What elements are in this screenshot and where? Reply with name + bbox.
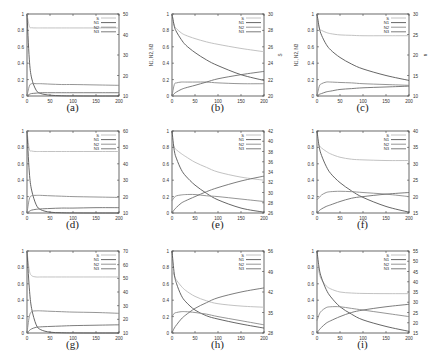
svg-text:0.2: 0.2 xyxy=(18,78,25,83)
svg-text:0.6: 0.6 xyxy=(18,162,25,167)
chart-panel-g: 00.20.40.60.8110203040506070050100150200… xyxy=(0,237,145,355)
chart-caption: (e) xyxy=(145,218,290,230)
svg-text:0: 0 xyxy=(21,331,24,336)
svg-text:60: 60 xyxy=(123,129,129,134)
svg-text:50: 50 xyxy=(123,145,129,150)
chart-caption: (d) xyxy=(0,218,145,230)
svg-text:35: 35 xyxy=(413,290,419,295)
chart-caption: (f) xyxy=(290,218,435,230)
svg-text:30: 30 xyxy=(123,178,129,183)
figure-grid: 00.20.40.60.811020304050050100150200SN1N… xyxy=(0,0,436,356)
svg-text:0.4: 0.4 xyxy=(18,298,25,303)
svg-text:40: 40 xyxy=(123,290,129,295)
svg-text:0: 0 xyxy=(166,331,169,336)
svg-text:1: 1 xyxy=(166,12,169,17)
series-s xyxy=(172,141,264,180)
line-chart: 00.20.40.60.812835424956050100150200SN1N… xyxy=(145,237,290,342)
svg-text:0.4: 0.4 xyxy=(163,178,170,183)
svg-text:0.2: 0.2 xyxy=(163,195,170,200)
svg-text:10: 10 xyxy=(123,331,129,336)
svg-text:0: 0 xyxy=(311,331,314,336)
svg-text:n: n xyxy=(423,53,428,56)
svg-text:30: 30 xyxy=(123,304,129,309)
svg-text:0.6: 0.6 xyxy=(163,45,170,50)
svg-text:0.6: 0.6 xyxy=(163,162,170,167)
svg-text:15: 15 xyxy=(413,331,419,336)
svg-text:42: 42 xyxy=(268,290,274,295)
svg-text:N3: N3 xyxy=(239,146,245,151)
svg-text:N1, N2, N3: N1, N2, N3 xyxy=(149,43,154,66)
svg-text:N3: N3 xyxy=(94,29,100,34)
svg-text:0.2: 0.2 xyxy=(163,315,170,320)
svg-text:0.4: 0.4 xyxy=(308,178,315,183)
series-s xyxy=(172,14,264,52)
svg-text:36: 36 xyxy=(268,160,274,165)
svg-text:0: 0 xyxy=(166,94,169,99)
svg-text:40: 40 xyxy=(123,162,129,167)
svg-text:25: 25 xyxy=(413,33,419,38)
series-n1 xyxy=(317,14,409,80)
svg-text:26: 26 xyxy=(268,211,274,216)
svg-text:0.6: 0.6 xyxy=(308,282,315,287)
svg-text:10: 10 xyxy=(413,94,419,99)
series-n1 xyxy=(27,131,119,213)
svg-text:0: 0 xyxy=(21,94,24,99)
svg-text:0.2: 0.2 xyxy=(308,315,315,320)
svg-text:0.6: 0.6 xyxy=(163,282,170,287)
line-chart: 00.20.40.60.81102030405060050100150200SN… xyxy=(0,117,145,222)
svg-text:1: 1 xyxy=(21,129,24,134)
svg-text:0.8: 0.8 xyxy=(163,265,170,270)
svg-text:40: 40 xyxy=(413,280,419,285)
chart-panel-f: 00.20.40.60.81152025303540050100150200SN… xyxy=(290,117,435,235)
svg-text:35: 35 xyxy=(268,311,274,316)
svg-text:0: 0 xyxy=(166,211,169,216)
svg-text:30: 30 xyxy=(268,191,274,196)
svg-text:N3: N3 xyxy=(94,266,100,271)
line-chart: 00.20.40.60.8110203040506070050100150200… xyxy=(0,237,145,342)
svg-text:22: 22 xyxy=(268,78,274,83)
svg-text:N3: N3 xyxy=(239,266,245,271)
svg-text:20: 20 xyxy=(413,321,419,326)
svg-text:1: 1 xyxy=(166,129,169,134)
svg-text:0.6: 0.6 xyxy=(308,45,315,50)
svg-text:N3: N3 xyxy=(384,146,390,151)
series-s xyxy=(27,14,119,28)
svg-text:40: 40 xyxy=(123,33,129,38)
svg-text:0.8: 0.8 xyxy=(18,265,25,270)
svg-text:N3: N3 xyxy=(94,146,100,151)
series-s xyxy=(317,261,409,293)
chart-caption: (b) xyxy=(145,101,290,113)
chart-caption: (g) xyxy=(0,338,145,350)
svg-text:26: 26 xyxy=(268,45,274,50)
series-n3 xyxy=(172,288,264,333)
svg-text:10: 10 xyxy=(123,94,129,99)
svg-text:0.4: 0.4 xyxy=(308,298,315,303)
svg-text:35: 35 xyxy=(413,145,419,150)
svg-text:0: 0 xyxy=(311,211,314,216)
svg-text:0.2: 0.2 xyxy=(163,78,170,83)
svg-text:0: 0 xyxy=(311,94,314,99)
chart-caption: (h) xyxy=(145,338,290,350)
svg-text:N3: N3 xyxy=(384,266,390,271)
svg-text:24: 24 xyxy=(268,61,274,66)
svg-text:0.8: 0.8 xyxy=(308,145,315,150)
svg-text:45: 45 xyxy=(413,270,419,275)
svg-text:1: 1 xyxy=(311,249,314,254)
svg-text:20: 20 xyxy=(268,94,274,99)
svg-text:1: 1 xyxy=(166,249,169,254)
svg-text:0.8: 0.8 xyxy=(18,28,25,33)
line-chart: 00.20.40.60.81202224262830050100150200N1… xyxy=(145,0,290,105)
svg-text:15: 15 xyxy=(413,74,419,79)
svg-text:20: 20 xyxy=(123,195,129,200)
svg-text:15: 15 xyxy=(413,211,419,216)
series-s xyxy=(317,14,409,36)
svg-text:N3: N3 xyxy=(239,29,245,34)
svg-text:20: 20 xyxy=(123,74,129,79)
chart-caption: (i) xyxy=(290,338,435,350)
svg-text:70: 70 xyxy=(123,249,129,254)
chart-panel-h: 00.20.40.60.812835424956050100150200SN1N… xyxy=(145,237,290,355)
svg-text:30: 30 xyxy=(413,162,419,167)
svg-text:1: 1 xyxy=(311,129,314,134)
svg-text:32: 32 xyxy=(268,180,274,185)
line-chart: 00.20.40.60.8115202530354045505505010015… xyxy=(290,237,435,342)
